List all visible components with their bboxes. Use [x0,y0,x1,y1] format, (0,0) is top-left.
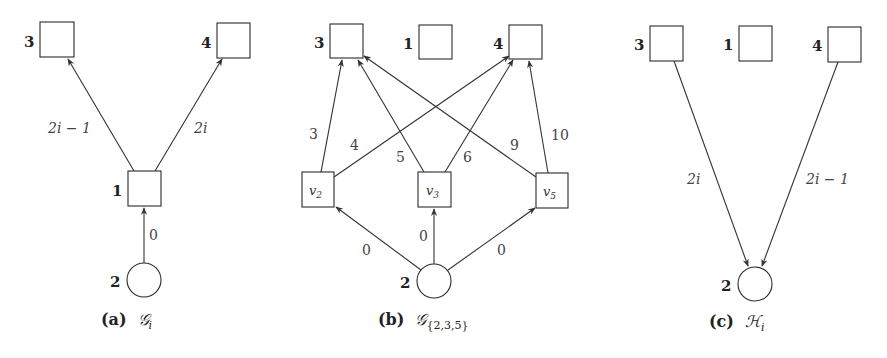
node-b-3 [330,24,363,58]
caption-a-tag: (a) [101,310,127,329]
node-a-2-label: 2 [110,273,120,291]
edge-weight-b-v3-3: 5 [396,149,405,165]
caption-a: (a) 𝒢i [101,310,152,332]
panel-a: 3 4 1 2 2i − 1 2i 0 (a) 𝒢i [24,22,250,332]
node-c-2-label: 2 [721,277,731,295]
edge-weight-b-2-v3: 0 [419,228,428,244]
edge-weight-c-3-2: 2i [686,171,700,187]
edge-v3-to-3 [358,60,424,172]
node-a-4-label: 4 [201,34,211,52]
edge-weight-b-v2-4: 4 [350,137,359,153]
node-b-1 [419,25,452,59]
edge-v5-to-4 [529,61,548,173]
node-c-4-label: 4 [812,37,822,55]
edge-weight-b-v5-4: 10 [551,127,569,143]
node-c-3-label: 3 [634,36,644,54]
node-a-3 [40,22,74,57]
edge-v2-to-4 [334,56,509,177]
diagram-canvas: 3 4 1 2 2i − 1 2i 0 (a) 𝒢i 3 1 [0,0,887,358]
edge-v5-to-3 [364,56,536,177]
edge-3-to-2 [674,61,748,266]
node-c-1 [739,26,772,61]
edge-1-to-4 [155,59,222,171]
edge-weight-b-2-v5: 0 [497,242,506,258]
edge-1-to-3 [68,59,134,171]
node-a-2 [127,263,161,297]
caption-a-sub: i [149,319,153,332]
node-a-3-label: 3 [24,33,34,51]
panel-b: 3 1 4 v2 v3 v5 2 3 4 5 6 9 10 0 0 0 (b) … [302,24,569,332]
node-a-1-label: 1 [112,182,122,200]
edge-4-to-2 [762,62,838,266]
caption-b: (b) 𝒢{2,3,5} [378,310,468,332]
caption-b-tag: (b) [378,310,404,329]
edge-weight-a-1-4: 2i [193,120,207,136]
node-c-4 [828,27,861,62]
edge-weight-b-v2-3: 3 [309,126,318,142]
node-c-1-label: 1 [723,36,733,54]
node-b-2-label: 2 [400,274,410,292]
caption-c-tag: (c) [709,312,734,331]
edge-weight-a-2-1: 0 [149,227,158,243]
edge-weight-b-v3-4: 6 [463,149,472,165]
caption-c-sub: i [761,321,765,334]
node-b-3-label: 3 [314,34,324,52]
panel-c: 3 1 4 2 2i 2i − 1 (c) ℋi [634,26,861,334]
edge-2-to-v2 [336,207,421,270]
node-b-4-label: 4 [493,35,503,53]
edge-weight-a-1-3: 2i − 1 [47,120,91,136]
edge-weight-b-2-v2: 0 [362,242,371,258]
node-b-1-label: 1 [403,35,413,53]
node-b-2 [417,264,451,298]
node-c-2 [738,267,772,301]
caption-b-sub: {2,3,5} [426,319,468,332]
node-a-4 [217,23,250,58]
node-c-3 [650,26,683,61]
edge-2-to-v5 [448,208,535,270]
edge-weight-b-v5-3: 9 [510,137,519,153]
caption-c: (c) ℋi [709,312,765,334]
node-a-1 [128,171,161,206]
edge-v2-to-3 [321,60,342,172]
node-b-4 [509,25,542,59]
edge-weight-c-4-2: 2i − 1 [805,171,849,187]
